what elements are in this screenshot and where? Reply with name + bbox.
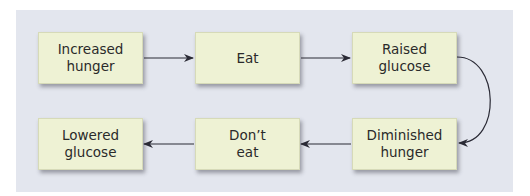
node-diminished-hunger: Diminished hunger bbox=[352, 118, 457, 170]
node-label: Eat bbox=[236, 50, 258, 67]
node-label: Diminished hunger bbox=[367, 127, 443, 161]
node-dont-eat: Don’t eat bbox=[195, 118, 300, 170]
node-increased-hunger: Increased hunger bbox=[38, 32, 143, 84]
node-label: Increased hunger bbox=[58, 41, 124, 75]
node-label: Lowered glucose bbox=[62, 127, 119, 161]
node-label: Raised glucose bbox=[379, 41, 431, 75]
node-lowered-glucose: Lowered glucose bbox=[38, 118, 143, 170]
node-eat: Eat bbox=[195, 32, 300, 84]
node-label: Don’t eat bbox=[229, 127, 266, 161]
node-raised-glucose: Raised glucose bbox=[352, 32, 457, 84]
